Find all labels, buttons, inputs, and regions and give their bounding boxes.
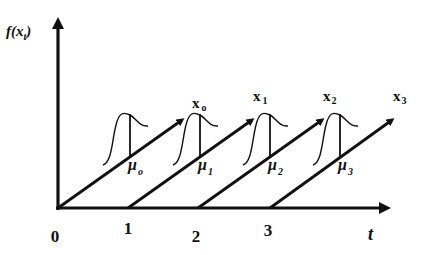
tick-label-2: 2 <box>192 227 201 246</box>
x-axis-label: t <box>368 224 374 244</box>
mean-label-mu0: μo <box>127 156 143 177</box>
diagonal-arrow-x1 <box>128 120 252 208</box>
diagonal-arrow-x2 <box>198 120 322 208</box>
mean-label-mu2: μ2 <box>267 156 283 177</box>
diagonal-arrow-x3 <box>270 120 392 208</box>
series-label-x1: x1 <box>253 88 268 106</box>
series-x3: x3 μ3 <box>270 88 407 208</box>
series-label-x0: xo <box>192 95 207 113</box>
tick-label-0: 0 <box>51 227 60 246</box>
mean-label-mu3: μ3 <box>337 156 353 177</box>
y-axis-label: f(xt) <box>6 23 31 42</box>
time-series-distribution-diagram: f(xt) t 0 1 2 3 xo μo x1 μ1 x2 μ2 x3 μ3 <box>0 0 430 255</box>
distribution-curve-x0 <box>103 113 148 165</box>
series-x2: x2 μ2 <box>198 88 337 208</box>
series-label-x3: x3 <box>393 88 407 106</box>
diagonal-arrow-x0 <box>58 120 182 208</box>
tick-label-1: 1 <box>124 219 133 238</box>
series-label-x2: x2 <box>323 88 337 106</box>
tick-label-3: 3 <box>264 221 273 240</box>
mean-label-mu1: μ1 <box>197 156 213 177</box>
series-x0: xo μo <box>58 95 207 208</box>
